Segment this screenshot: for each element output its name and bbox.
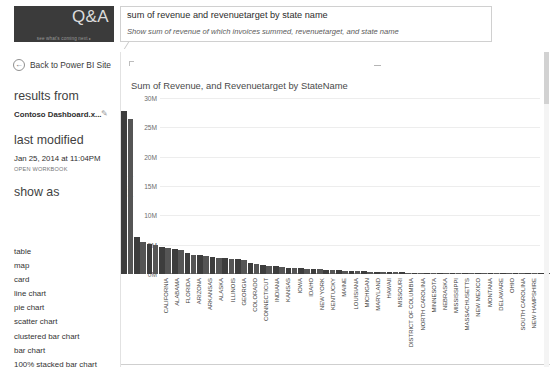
bar[interactable] <box>172 249 178 274</box>
bar[interactable] <box>349 271 355 274</box>
bar[interactable] <box>475 273 481 274</box>
bar[interactable] <box>431 273 437 274</box>
bar[interactable] <box>393 272 399 274</box>
show-as-item-pie-chart[interactable]: pie chart <box>0 301 121 315</box>
bar[interactable] <box>468 273 474 274</box>
bar-group[interactable] <box>323 98 336 274</box>
bar[interactable] <box>488 273 494 274</box>
bar-group[interactable] <box>386 98 399 274</box>
bar[interactable] <box>121 111 127 274</box>
bar-group[interactable] <box>399 98 412 274</box>
bar[interactable] <box>159 247 165 274</box>
search-input[interactable]: sum of revenue and revenuetarget by stat… <box>127 10 328 20</box>
bar[interactable] <box>286 268 292 274</box>
show-as-item-100-stacked-bar-chart[interactable]: 100% stacked bar chart <box>0 358 121 367</box>
scrollbar-thumb[interactable] <box>544 52 549 104</box>
bar-group[interactable] <box>310 98 323 274</box>
bar[interactable] <box>254 264 260 274</box>
bar[interactable] <box>210 257 216 274</box>
bar[interactable] <box>279 267 285 274</box>
bar-group[interactable] <box>285 98 298 274</box>
show-as-item-table[interactable]: table <box>0 245 121 259</box>
bar-group[interactable] <box>184 98 197 274</box>
bar[interactable] <box>203 256 209 274</box>
show-as-item-map[interactable]: map <box>0 259 121 273</box>
bar-group[interactable] <box>222 98 235 274</box>
bar[interactable] <box>387 272 393 274</box>
bar[interactable] <box>494 273 500 274</box>
bar[interactable] <box>197 255 203 274</box>
bar-group[interactable] <box>437 98 450 274</box>
bar-group[interactable] <box>361 98 374 274</box>
bar[interactable] <box>216 258 222 274</box>
bar[interactable] <box>165 248 171 274</box>
bar[interactable] <box>538 273 544 274</box>
bar[interactable] <box>153 245 159 274</box>
bar-group[interactable] <box>146 98 159 274</box>
back-to-power-bi-site-button[interactable]: ← Back to Power BI Site <box>13 59 111 71</box>
show-as-item-scatter-chart[interactable]: scatter chart <box>0 315 121 329</box>
bar[interactable] <box>418 273 424 274</box>
bar-group[interactable] <box>247 98 260 274</box>
bar[interactable] <box>241 260 247 274</box>
bar-group[interactable] <box>298 98 311 274</box>
bar-group[interactable] <box>462 98 475 274</box>
bar[interactable] <box>462 273 468 274</box>
bar[interactable] <box>342 271 348 274</box>
bar-group[interactable] <box>348 98 361 274</box>
bar[interactable] <box>298 268 304 274</box>
bar-group[interactable] <box>159 98 172 274</box>
bar[interactable] <box>229 259 235 274</box>
bar[interactable] <box>292 268 298 274</box>
bar[interactable] <box>140 242 146 274</box>
bar[interactable] <box>147 244 153 275</box>
bar[interactable] <box>481 273 487 274</box>
bar[interactable] <box>405 273 411 274</box>
pencil-icon[interactable]: ✎ <box>101 109 108 118</box>
bar-group[interactable] <box>475 98 488 274</box>
bar[interactable] <box>513 273 519 274</box>
open-workbook-link[interactable]: OPEN WORKBOOK <box>14 166 68 172</box>
bar-group[interactable] <box>512 98 525 274</box>
bar[interactable] <box>311 269 317 274</box>
qa-tagline[interactable]: see what's coming next ▸ <box>14 36 114 41</box>
bar-group[interactable] <box>411 98 424 274</box>
bar[interactable] <box>317 269 323 274</box>
bar-group[interactable] <box>336 98 349 274</box>
bar[interactable] <box>374 272 380 274</box>
bar[interactable] <box>437 273 443 274</box>
bar[interactable] <box>222 258 228 274</box>
bar[interactable] <box>424 273 430 274</box>
bar[interactable] <box>399 272 405 274</box>
bar[interactable] <box>191 255 197 274</box>
vertical-scrollbar[interactable] <box>544 52 549 367</box>
bar[interactable] <box>304 269 310 274</box>
bar[interactable] <box>248 263 254 274</box>
bar[interactable] <box>532 273 538 274</box>
bar-group[interactable] <box>172 98 185 274</box>
bar-group[interactable] <box>134 98 147 274</box>
bar-group[interactable] <box>500 98 513 274</box>
show-as-item-clustered-bar-chart[interactable]: clustered bar chart <box>0 330 121 344</box>
query-box[interactable]: sum of revenue and revenuetarget by stat… <box>120 6 492 42</box>
bar-group[interactable] <box>209 98 222 274</box>
bar[interactable] <box>178 250 184 274</box>
bar-group[interactable] <box>197 98 210 274</box>
bar[interactable] <box>330 270 336 274</box>
bar[interactable] <box>134 237 140 274</box>
bar[interactable] <box>456 273 462 274</box>
show-as-item-line-chart[interactable]: line chart <box>0 287 121 301</box>
bar[interactable] <box>355 271 361 274</box>
bar[interactable] <box>500 273 506 274</box>
bar-group[interactable] <box>235 98 248 274</box>
bar[interactable] <box>380 272 386 274</box>
bar-group[interactable] <box>260 98 273 274</box>
bar[interactable] <box>367 272 373 274</box>
bar[interactable] <box>273 266 279 274</box>
bar[interactable] <box>128 119 134 274</box>
bar[interactable] <box>519 273 525 274</box>
bar[interactable] <box>235 259 241 274</box>
minimize-icon[interactable] <box>374 65 381 66</box>
bar-group[interactable] <box>121 98 134 274</box>
bar[interactable] <box>450 273 456 274</box>
